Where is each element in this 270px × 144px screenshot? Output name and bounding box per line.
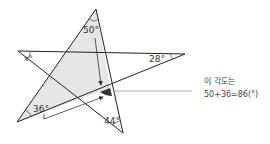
pentagram-diagram: 50° x° 28° 36° 44° — [0, 0, 270, 144]
angle-label-right: 28° — [149, 54, 165, 64]
annotation-line-2: 50+36=86(°) — [204, 89, 258, 101]
angle-label-bottom-left: 36° — [33, 104, 49, 114]
annotation-line-1: 이 각도는 — [204, 76, 235, 88]
angle-label-bottom-right: 44° — [104, 116, 120, 126]
angle-label-left: x° — [24, 54, 33, 63]
angle-label-top: 50° — [83, 25, 99, 35]
